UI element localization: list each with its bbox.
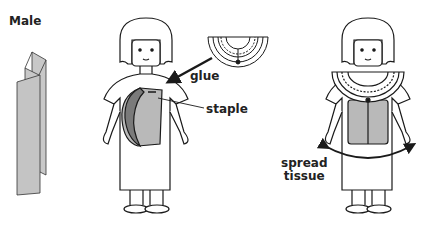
figure-step-2: [325, 18, 410, 213]
figure-step-1: [103, 18, 188, 213]
folded-tissue-paper: [17, 52, 46, 195]
diagram-canvas: [0, 0, 432, 231]
collar-piece: [208, 37, 268, 67]
glue-arrow: [172, 58, 212, 80]
sandal-right: [145, 205, 169, 213]
face: [132, 40, 160, 66]
